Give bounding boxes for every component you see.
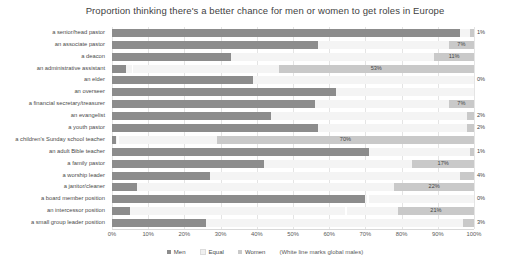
bar-segment-equal[interactable] — [318, 41, 448, 49]
bar-segment-equal[interactable] — [271, 112, 466, 120]
bar-rows: 1%7%11%53%0%7%2%2%70%1%17%4%22%0%21%3% — [112, 27, 474, 229]
bar-segment-men[interactable] — [112, 112, 271, 120]
bar-segment-women[interactable]: 53% — [279, 65, 474, 73]
x-axis-tick-label: 80% — [396, 231, 408, 237]
y-axis-label: an adult Bible teacher — [49, 149, 105, 155]
bar-row[interactable]: 2% — [112, 112, 474, 120]
bar-segment-equal[interactable] — [318, 124, 466, 132]
legend-item-women[interactable]: Women — [238, 249, 266, 255]
bar-segment-men[interactable] — [112, 100, 315, 108]
bar-segment-men[interactable] — [112, 41, 318, 49]
bar-value-label: 0% — [477, 196, 485, 202]
y-axis-label: a worship leader — [62, 173, 105, 179]
bar-segment-equal[interactable] — [231, 53, 434, 61]
bar-row[interactable]: 22% — [112, 183, 474, 191]
bar-segment-men[interactable] — [112, 207, 130, 215]
bar-value-label: 1% — [477, 149, 485, 155]
bar-value-label: 7% — [457, 42, 465, 48]
chart-title: Proportion thinking there's a better cha… — [0, 5, 530, 16]
y-axis-label: a board member position — [41, 196, 105, 202]
bar-segment-men[interactable] — [112, 160, 264, 168]
bar-segment-equal[interactable] — [137, 183, 394, 191]
bar-segment-men[interactable] — [112, 124, 318, 132]
bar-segment-women[interactable]: 17% — [412, 160, 474, 168]
bar-value-label: 2% — [477, 113, 485, 119]
bar-value-label: 7% — [457, 101, 465, 107]
bar-row[interactable] — [112, 88, 474, 96]
women-swatch-icon — [238, 250, 242, 254]
bar-row[interactable]: 2% — [112, 124, 474, 132]
men-swatch-icon — [167, 250, 171, 254]
y-axis-label: a financial secretary/treasurer — [29, 101, 105, 107]
bar-value-label: 22% — [429, 185, 440, 191]
bar-row[interactable]: 17% — [112, 160, 474, 168]
y-axis-label: a children's Sunday school teacher — [15, 137, 105, 143]
bar-row[interactable]: 0% — [112, 76, 474, 84]
bar-value-label: 11% — [449, 54, 460, 60]
bar-segment-equal[interactable] — [130, 207, 398, 215]
bar-value-label: 2% — [477, 125, 485, 131]
y-axis-label: an elder — [84, 77, 105, 83]
bar-row[interactable]: 1% — [112, 29, 474, 37]
bar-segment-men[interactable] — [112, 65, 126, 73]
bar-row[interactable]: 7% — [112, 41, 474, 49]
bar-segment-women[interactable] — [463, 219, 474, 227]
bar-segment-women[interactable]: 7% — [449, 100, 474, 108]
bar-segment-equal[interactable] — [206, 219, 463, 227]
bar-segment-men[interactable] — [112, 148, 369, 156]
bar-value-label: 0% — [477, 78, 485, 84]
bar-segment-equal[interactable] — [365, 195, 474, 203]
bar-segment-women[interactable] — [467, 112, 474, 120]
global-male-marker — [132, 65, 133, 73]
bar-segment-equal[interactable] — [460, 29, 471, 37]
bar-segment-equal[interactable] — [369, 148, 470, 156]
bar-segment-equal[interactable] — [315, 100, 449, 108]
bar-segment-women[interactable]: 7% — [449, 41, 474, 49]
bar-segment-women[interactable]: 21% — [398, 207, 474, 215]
bar-segment-women[interactable]: 22% — [394, 183, 474, 191]
bar-segment-men[interactable] — [112, 53, 231, 61]
bar-segment-equal[interactable] — [336, 88, 474, 96]
x-axis-ticks: 0%10%20%30%40%50%60%70%80%90%100% — [112, 231, 474, 243]
x-axis-tick-label: 50% — [287, 231, 299, 237]
x-axis-tick-label: 20% — [179, 231, 191, 237]
bar-row[interactable]: 70% — [112, 136, 474, 144]
global-male-marker — [345, 207, 346, 215]
bar-row[interactable]: 53% — [112, 65, 474, 73]
bar-segment-equal[interactable] — [253, 76, 474, 84]
bar-segment-women[interactable] — [470, 148, 474, 156]
global-male-marker — [367, 195, 368, 203]
bar-row[interactable]: 4% — [112, 172, 474, 180]
bar-segment-equal[interactable] — [264, 160, 412, 168]
bar-segment-men[interactable] — [112, 183, 137, 191]
bar-row[interactable]: 0% — [112, 195, 474, 203]
bar-segment-women[interactable] — [470, 29, 474, 37]
bar-segment-equal[interactable] — [126, 65, 278, 73]
bar-segment-women[interactable] — [467, 124, 474, 132]
legend-item-men[interactable]: Men — [167, 249, 186, 255]
bar-row[interactable]: 21% — [112, 207, 474, 215]
bar-segment-men[interactable] — [112, 88, 336, 96]
y-axis-label: an overseer — [74, 89, 105, 95]
x-axis-tick-label: 30% — [215, 231, 227, 237]
bar-segment-women[interactable]: 11% — [434, 53, 474, 61]
y-axis-label: an evangelist — [71, 113, 105, 119]
global-male-marker — [117, 136, 118, 144]
plot-area: 1%7%11%53%0%7%2%2%70%1%17%4%22%0%21%3% — [112, 27, 474, 229]
bar-segment-men[interactable] — [112, 29, 460, 37]
bar-row[interactable]: 11% — [112, 53, 474, 61]
legend-item-equal[interactable]: Equal — [200, 249, 224, 255]
bar-segment-men[interactable] — [112, 219, 206, 227]
bar-segment-men[interactable] — [112, 195, 365, 203]
bar-segment-women[interactable] — [460, 172, 474, 180]
bar-segment-women[interactable]: 70% — [217, 136, 474, 144]
bar-segment-men[interactable] — [112, 172, 210, 180]
bar-segment-equal[interactable] — [210, 172, 460, 180]
bar-segment-men[interactable] — [112, 76, 253, 84]
bar-row[interactable]: 1% — [112, 148, 474, 156]
y-axis-label: a small group leader position — [31, 220, 105, 226]
x-axis-tick-label: 90% — [432, 231, 444, 237]
bar-segment-equal[interactable] — [116, 136, 217, 144]
bar-row[interactable]: 3% — [112, 219, 474, 227]
bar-row[interactable]: 7% — [112, 100, 474, 108]
